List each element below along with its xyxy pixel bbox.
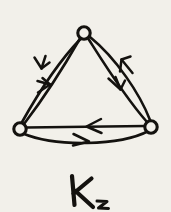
vertex-top[interactable] xyxy=(78,27,90,39)
edge-right-to-left-straight xyxy=(27,119,146,133)
edge-top-to-right-inner xyxy=(89,39,148,122)
edge-path-right-top-outer xyxy=(90,37,150,120)
vertex-left[interactable] xyxy=(14,123,26,135)
vertex-right[interactable] xyxy=(145,121,157,133)
edge-right-to-top-outer xyxy=(90,37,150,120)
edge-left-to-right-bowed xyxy=(23,131,149,146)
figure-caption: K 3 xyxy=(68,176,109,212)
edge-path-left-top-inner xyxy=(24,39,80,125)
k3-graph-figure: K 3 xyxy=(0,0,171,212)
arrowhead-up-left-tail-icon xyxy=(120,60,122,72)
edge-left-to-top-inner xyxy=(24,39,80,125)
figure-page: K 3 xyxy=(0,0,171,212)
